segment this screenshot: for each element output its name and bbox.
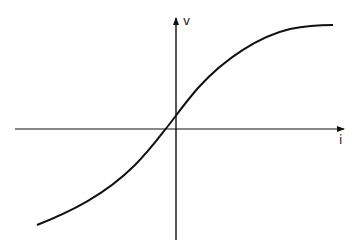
- characteristic-curve: [37, 25, 333, 225]
- i-axis-label: i: [339, 133, 342, 147]
- v-axis-label: v: [183, 14, 190, 28]
- vi-characteristic-diagram: v i: [0, 0, 358, 247]
